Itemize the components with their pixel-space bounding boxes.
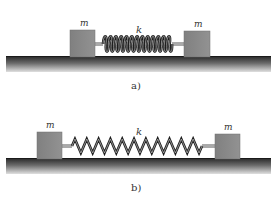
spring-a [95, 36, 184, 52]
panel-b: m m k b) [6, 120, 271, 193]
two-mass-spring-diagram: m m k a) m m k b) [0, 0, 278, 204]
ground-a [6, 56, 271, 72]
spring-zigzag-b-highlight [72, 139, 202, 153]
mass-block-b-right [215, 134, 240, 159]
panel-label-a: a) [131, 80, 141, 91]
mass-block-a-right [184, 31, 210, 57]
mass-block-b-left [37, 132, 62, 159]
spring-constant-label-a: k [136, 24, 142, 35]
ground-b [6, 158, 271, 174]
mass-label-a-left: m [80, 18, 89, 28]
spring-b [62, 139, 215, 153]
mass-block-a-left [70, 30, 95, 57]
mass-label-b-left: m [46, 120, 55, 130]
mass-label-a-right: m [194, 19, 203, 29]
mass-label-b-right: m [224, 122, 233, 132]
spring-constant-label-b: k [136, 126, 142, 137]
panel-label-b: b) [131, 182, 141, 193]
panel-a: m m k a) [6, 18, 271, 91]
